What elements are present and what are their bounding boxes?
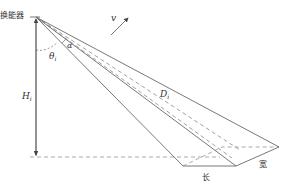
velocity-label: v — [111, 14, 116, 23]
theta-label: θi — [49, 52, 56, 62]
width-label: 宽 — [259, 161, 267, 169]
theta-arc — [36, 43, 57, 50]
footprint-width-edge — [236, 147, 279, 166]
slant-range-dash-2 — [36, 17, 240, 150]
length-label: 长 — [202, 174, 210, 182]
alpha-label: α — [67, 42, 72, 50]
slant-range-dash-1 — [36, 17, 232, 158]
transducer-label: 换能器 — [0, 12, 24, 20]
beam-footprint-diagram — [0, 0, 289, 189]
beam-edge-top — [36, 17, 279, 147]
height-label: Hi — [22, 92, 32, 102]
distance-label: Di — [160, 90, 169, 100]
alpha-arc — [62, 39, 66, 43]
